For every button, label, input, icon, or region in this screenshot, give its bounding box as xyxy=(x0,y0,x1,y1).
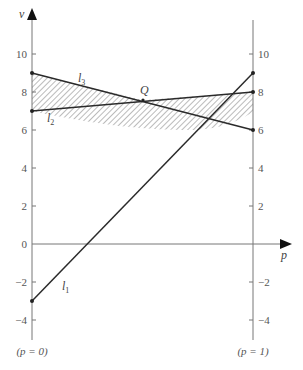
svg-text:6: 6 xyxy=(22,124,28,136)
svg-text:8: 8 xyxy=(22,86,28,98)
svg-text:2: 2 xyxy=(22,200,28,212)
svg-text:2: 2 xyxy=(258,200,264,212)
label-l1: l1 xyxy=(62,279,69,295)
arrow-up-icon xyxy=(27,8,37,20)
left-axis-caption: (p = 0) xyxy=(16,345,48,358)
svg-text:4: 4 xyxy=(258,162,264,174)
svg-text:10: 10 xyxy=(258,48,270,60)
svg-text:4: 4 xyxy=(22,162,28,174)
right-axis xyxy=(249,20,253,340)
left-axis xyxy=(27,8,37,340)
right-axis-caption: (p = 1) xyxy=(237,345,269,358)
p-axis-label: p xyxy=(280,248,287,262)
svg-text:6: 6 xyxy=(258,124,264,136)
label-l3: l3 xyxy=(78,71,85,87)
svg-text:−2: −2 xyxy=(15,276,27,288)
intersection-label-q: Q xyxy=(140,83,149,97)
left-tick-labels: 10 8 6 4 2 0 −2 −4 xyxy=(15,48,27,326)
svg-text:8: 8 xyxy=(258,86,264,98)
svg-text:−4: −4 xyxy=(258,314,270,326)
v-axis-label: v xyxy=(19,7,25,21)
svg-text:−2: −2 xyxy=(258,276,270,288)
right-tick-labels: 10 8 6 4 2 −2 −4 xyxy=(258,48,270,326)
payoff-diagram: 10 8 6 4 2 0 −2 −4 10 8 6 4 2 −2 −4 v p … xyxy=(0,0,303,370)
svg-text:10: 10 xyxy=(16,48,28,60)
svg-text:0: 0 xyxy=(22,238,28,250)
svg-text:−4: −4 xyxy=(15,314,27,326)
